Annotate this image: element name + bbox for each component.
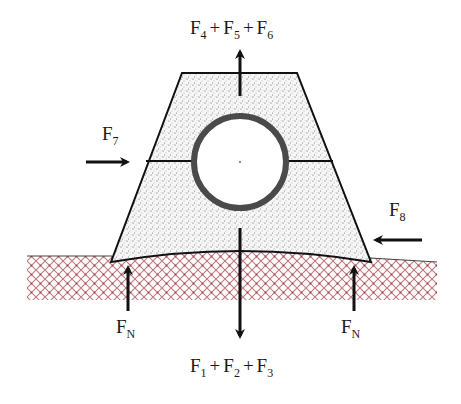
label-f7: F7 xyxy=(102,123,119,148)
label-fn-left: FN xyxy=(116,316,136,341)
pipe xyxy=(194,116,286,208)
label-top-forces: F4+F5+F6 xyxy=(190,17,273,42)
soil-ground xyxy=(27,250,437,300)
free-body-diagram: F4+F5+F6 F7 F8 FN FN F1+F2+F3 xyxy=(0,0,461,404)
pipe-center-point xyxy=(239,161,241,163)
label-f8: F8 xyxy=(389,199,406,224)
label-bottom-forces: F1+F2+F3 xyxy=(190,355,273,380)
label-fn-right: FN xyxy=(341,316,361,341)
